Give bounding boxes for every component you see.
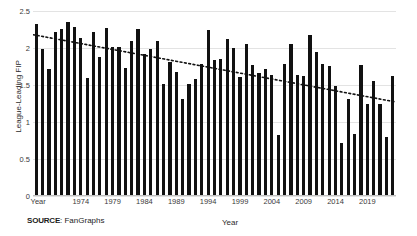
bar [391, 76, 394, 196]
bar [219, 59, 222, 196]
x-axis-tick-label: 1994 [200, 197, 217, 206]
gridline [33, 11, 396, 12]
bar [73, 27, 76, 196]
bar [315, 52, 318, 196]
bar [136, 29, 139, 196]
bar [175, 72, 178, 196]
x-axis-tick-label-first: Year [31, 197, 46, 206]
x-axis-tick-label: 1974 [72, 197, 89, 206]
bar [111, 47, 114, 196]
y-axis-tick-label: 0 [4, 192, 30, 201]
y-axis-tick-label: 1 [4, 118, 30, 127]
bar [347, 99, 350, 196]
y-axis-tick-label: 2 [4, 44, 30, 53]
y-axis-tick-label: 2.5 [4, 7, 30, 16]
x-axis-tick-label: 2019 [359, 197, 376, 206]
x-axis-tick-label: 2009 [295, 197, 312, 206]
bar [385, 137, 388, 196]
bar [226, 39, 229, 196]
bar [321, 64, 324, 196]
bar [213, 60, 216, 196]
bar [283, 64, 286, 196]
bar [302, 76, 305, 196]
x-axis-tick-label: 1984 [136, 197, 153, 206]
bar [372, 81, 375, 196]
bar [200, 64, 203, 196]
bar [187, 84, 190, 196]
bar [92, 32, 95, 196]
bar [194, 79, 197, 196]
bar [257, 73, 260, 196]
x-axis-tick-label: 2014 [327, 197, 344, 206]
bar [340, 143, 343, 196]
bar [264, 69, 267, 196]
bar [366, 104, 369, 197]
y-axis-ticks: 00.511.522.5 [0, 11, 30, 196]
bar [232, 48, 235, 196]
bar [66, 22, 69, 196]
x-axis-tick-label: 1979 [104, 197, 121, 206]
bar [289, 44, 292, 196]
bar [98, 57, 101, 196]
source-value: FanGraphs [64, 216, 104, 225]
bar [308, 35, 311, 196]
y-axis-tick-label: 1.5 [4, 81, 30, 90]
bar [162, 84, 165, 196]
bar [238, 77, 241, 196]
bar [296, 75, 299, 196]
source-label: SOURCE [27, 216, 60, 225]
bar [54, 32, 57, 196]
bar [60, 29, 63, 196]
chart-container: League-Leading FIP 00.511.522.5 Year1974… [0, 0, 417, 236]
bar [207, 30, 210, 197]
bar [130, 41, 133, 196]
x-axis-line [33, 195, 396, 196]
bar [245, 44, 248, 196]
x-axis-tick-label: 1999 [232, 197, 249, 206]
x-axis-title: Year [150, 218, 310, 227]
bar [35, 24, 38, 196]
bar [277, 135, 280, 196]
bar [105, 28, 108, 196]
bar [79, 38, 82, 196]
bar [359, 65, 362, 196]
source-note: SOURCE: FanGraphs [27, 216, 105, 225]
gridline [33, 48, 396, 49]
bar [270, 75, 273, 196]
y-axis-tick-label: 0.5 [4, 155, 30, 164]
plot-area [33, 11, 396, 196]
bar [156, 41, 159, 196]
bar [168, 62, 171, 196]
x-axis-tick-label: 1989 [168, 197, 185, 206]
bar [117, 47, 120, 196]
x-axis-tick-label: 2004 [263, 197, 280, 206]
bar [328, 66, 331, 196]
x-axis-ticks: Year197419791984198919941999200420092014… [33, 197, 408, 209]
bar [86, 78, 89, 196]
bar [353, 134, 356, 196]
bar [378, 104, 381, 196]
bar [124, 68, 127, 196]
bar [181, 99, 184, 196]
bar [41, 49, 44, 196]
bar [149, 49, 152, 196]
bar [143, 54, 146, 196]
bar [334, 86, 337, 196]
bar [251, 65, 254, 196]
bar [47, 69, 50, 196]
